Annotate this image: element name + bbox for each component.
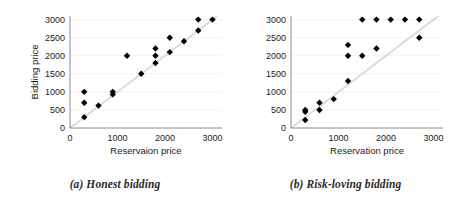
data-point	[359, 53, 365, 59]
plot-group-a: 0500100015002000250030000100020003000Res…	[29, 15, 223, 156]
y-axis-tick-label: 2500	[266, 33, 286, 43]
y-axis-tick-label: 2000	[266, 51, 286, 61]
x-axis-tick-label: 2000	[155, 133, 175, 143]
x-axis-tick-label: 0	[288, 133, 293, 143]
data-point	[416, 16, 422, 22]
x-axis-tick-label: 1000	[107, 133, 127, 143]
y-axis-tick-label: 500	[50, 105, 65, 115]
y-axis-tick-label: 1500	[45, 69, 65, 79]
y-axis-tick-label: 500	[271, 105, 286, 115]
x-axis-tick-label: 3000	[202, 133, 222, 143]
y-axis-tick-label: 3000	[266, 15, 286, 25]
y-axis-title: Bidding price	[29, 45, 40, 100]
scatter-plot-honest-bidding: 0500100015002000250030000100020003000Res…	[0, 0, 230, 175]
reference-line-identity	[70, 16, 217, 128]
data-point	[345, 42, 351, 48]
y-axis-tick-label: 0	[281, 123, 286, 133]
data-point	[402, 16, 408, 22]
chart-panel-risk-loving-bidding: 0500100015002000250030000100020003000Res…	[230, 0, 461, 207]
chart-panel-honest-bidding: 0500100015002000250030000100020003000Res…	[0, 0, 230, 207]
data-point	[388, 16, 394, 22]
y-axis-tick-label: 1000	[266, 87, 286, 97]
data-point	[416, 34, 422, 40]
y-axis-tick-label: 2500	[45, 33, 65, 43]
y-axis-tick-label: 1000	[45, 87, 65, 97]
reference-line-identity	[291, 16, 438, 128]
data-point	[345, 53, 351, 59]
x-axis-title: Reservaion price	[110, 145, 181, 156]
x-axis-tick-label: 2000	[376, 133, 396, 143]
x-axis-tick-label: 3000	[423, 133, 443, 143]
data-point	[167, 34, 173, 40]
plot-group-b: 0500100015002000250030000100020003000Res…	[266, 15, 444, 156]
x-axis-tick-label: 0	[67, 133, 72, 143]
panel-caption-a: (a) Honest bidding	[0, 178, 230, 190]
data-point	[152, 53, 158, 59]
data-point	[302, 117, 308, 123]
data-point	[195, 16, 201, 22]
data-point	[152, 45, 158, 51]
data-point	[81, 100, 87, 106]
x-axis-title: Reservation price	[330, 145, 404, 156]
scatter-plot-risk-loving-bidding: 0500100015002000250030000100020003000Res…	[230, 0, 461, 175]
data-point	[373, 45, 379, 51]
data-point	[373, 16, 379, 22]
y-axis-tick-label: 2000	[45, 51, 65, 61]
y-axis-tick-label: 1500	[266, 69, 286, 79]
figure-panels-row: 0500100015002000250030000100020003000Res…	[0, 0, 461, 207]
data-point	[359, 16, 365, 22]
panel-caption-b: (b) Risk-loving bidding	[230, 178, 461, 190]
y-axis-tick-label: 3000	[45, 15, 65, 25]
y-axis-tick-label: 0	[60, 123, 65, 133]
data-point	[81, 89, 87, 95]
data-point	[124, 53, 130, 59]
x-axis-tick-label: 1000	[328, 133, 348, 143]
